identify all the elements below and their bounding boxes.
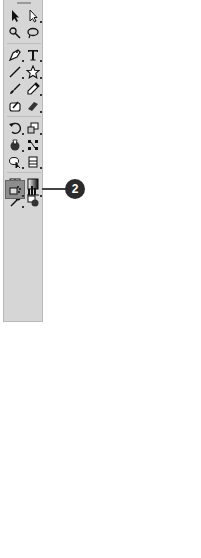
free-transform-icon bbox=[26, 138, 40, 152]
magic-wand-icon bbox=[8, 26, 22, 40]
column-graph-tool-button[interactable] bbox=[24, 181, 42, 198]
line-icon bbox=[8, 65, 22, 79]
pen-icon bbox=[8, 48, 22, 62]
symbol-sprayer-icon bbox=[8, 183, 22, 197]
callout-2: 2 bbox=[65, 179, 85, 199]
white-arrow-icon bbox=[26, 9, 40, 23]
flyout-indicator bbox=[40, 195, 42, 197]
symbol-sprayer-tool-button[interactable] bbox=[6, 181, 24, 198]
warp-icon bbox=[8, 138, 22, 152]
panel-grip[interactable] bbox=[17, 2, 31, 4]
type-tool-button[interactable] bbox=[24, 46, 42, 63]
blob-brush-icon bbox=[8, 99, 22, 113]
scale-tool-button[interactable] bbox=[24, 119, 42, 136]
line-segment-tool-button[interactable] bbox=[6, 63, 24, 80]
direct-selection-tool-button[interactable] bbox=[24, 7, 42, 24]
lasso-icon bbox=[26, 26, 40, 40]
perspective-grid-tool-button[interactable] bbox=[24, 153, 42, 170]
shape-builder-icon bbox=[8, 155, 22, 169]
paintbrush-icon bbox=[8, 82, 22, 96]
separator bbox=[7, 172, 41, 173]
star-icon bbox=[26, 65, 40, 79]
tools-panel bbox=[3, 0, 43, 322]
scale-icon bbox=[26, 121, 40, 135]
flyout-indicator bbox=[40, 133, 42, 135]
flyout-indicator bbox=[40, 60, 42, 62]
separator bbox=[7, 43, 41, 44]
arrow-icon bbox=[8, 9, 22, 23]
eraser-icon bbox=[26, 99, 40, 113]
pen-tool-button[interactable] bbox=[6, 46, 24, 63]
flyout-indicator bbox=[40, 111, 42, 113]
magic-wand-tool-button[interactable] bbox=[6, 24, 24, 41]
separator bbox=[7, 116, 41, 117]
free-transform-tool-button[interactable] bbox=[24, 136, 42, 153]
flyout-indicator bbox=[40, 167, 42, 169]
flyout-indicator bbox=[40, 21, 42, 23]
flyout-indicator bbox=[40, 94, 42, 96]
lasso-tool-button[interactable] bbox=[24, 24, 42, 41]
perspective-grid-icon bbox=[26, 155, 40, 169]
star-tool-button[interactable] bbox=[24, 63, 42, 80]
warp-tool-button[interactable] bbox=[6, 136, 24, 153]
rotate-tool-button[interactable] bbox=[6, 119, 24, 136]
column-graph-icon bbox=[26, 183, 40, 197]
pencil-icon bbox=[26, 82, 40, 96]
eraser-tool-button[interactable] bbox=[24, 97, 42, 114]
callout-2-leader bbox=[42, 188, 66, 190]
paintbrush-tool-button[interactable] bbox=[6, 80, 24, 97]
flyout-indicator bbox=[40, 77, 42, 79]
shape-builder-tool-button[interactable] bbox=[6, 153, 24, 170]
pencil-tool-button[interactable] bbox=[24, 80, 42, 97]
blob-brush-tool-button[interactable] bbox=[6, 97, 24, 114]
selection-tool-button[interactable] bbox=[6, 7, 24, 24]
rotate-icon bbox=[8, 121, 22, 135]
type-icon bbox=[26, 48, 40, 62]
